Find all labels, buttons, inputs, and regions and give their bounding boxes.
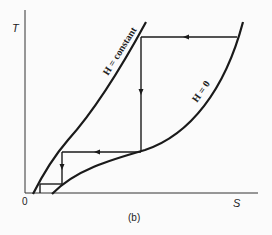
origin-label: 0 xyxy=(22,196,28,207)
arrow-left-icon xyxy=(183,35,189,40)
arrow-down-icon xyxy=(60,164,65,170)
h-zero-curve xyxy=(52,22,243,194)
arrow-left-icon xyxy=(94,150,100,155)
arrow-down-icon xyxy=(139,89,144,95)
ts-diagram: H = constant H = 0 xyxy=(0,0,272,235)
figure-caption: (b) xyxy=(128,212,140,223)
s-axis-label: S xyxy=(233,197,240,209)
t-axis-label: T xyxy=(12,22,19,34)
